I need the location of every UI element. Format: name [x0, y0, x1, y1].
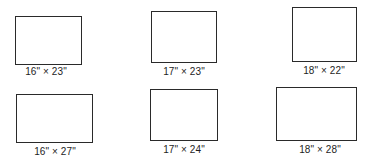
frame-rectangle-16x23: [15, 16, 82, 65]
frame-rectangle-18x22: [292, 7, 357, 62]
frame-label-18x22: 18" × 22": [303, 66, 345, 76]
frame-rectangle-16x27: [16, 94, 93, 143]
frame-label-16x27: 16" × 27": [34, 147, 76, 157]
frame-rectangle-17x24: [150, 89, 218, 141]
frame-label-17x24: 17" × 24": [163, 145, 205, 155]
frame-label-18x28: 18" × 28": [299, 145, 341, 155]
frame-label-17x23: 17" × 23": [163, 67, 205, 77]
frame-label-16x23: 16" × 23": [25, 67, 67, 77]
frame-rectangle-17x23: [151, 11, 217, 63]
frame-rectangle-18x28: [276, 87, 357, 141]
